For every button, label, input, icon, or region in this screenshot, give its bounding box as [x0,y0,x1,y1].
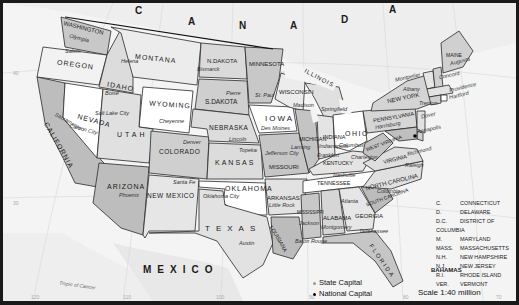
abbr-row: N.H.NEW HAMPSHIRE [436,253,516,262]
country-canada-a2: A [290,21,303,31]
country-canada-d: D [341,15,354,25]
lat-label-30: 30 [13,200,19,206]
capital-label-atlanta: Atlanta [341,199,358,205]
abbr-row: M.MARYLAND [436,235,516,244]
country-mexico: MEXICO [143,265,218,275]
capital-label-jefferson-city: Jefferson City [265,151,299,157]
country-canada-n: N [239,21,252,31]
capital-label-boise: Boise [105,91,119,97]
state-label-al: ALABAMA [323,215,351,221]
capital-label-frankfort: Frankfort [317,153,339,159]
legend-national-capital: National Capital [313,288,372,299]
state-label-az: ARIZONA [107,183,145,190]
capital-label-nashville: Nashville [333,173,355,179]
capital-label-des-moines: Des Moines [261,126,290,132]
lat-label-40: 40 [13,70,19,76]
capital-label-topeka: Topeka [239,148,257,154]
capital-label-lincoln: Lincoln [229,137,246,143]
capital-label-santa-fe: Santa Fe [173,180,195,186]
capital-label-tallahassee: Tallahassee [359,229,388,235]
lon-label-80: 80 [403,294,409,300]
capital-label-salt-lake-city: Salt Lake City [95,111,129,117]
capital-label-raleigh: Raleigh [405,163,424,169]
state-label-mo: MISSOURI [269,164,299,170]
abbr-row: MASS.MASSACHUSETTS [436,244,516,253]
capital-label-cheyenne: Cheyenne [159,119,184,125]
map-frame: C A N A D A MEXICO BAHAMAS WASHINGTON Ol… [0,0,519,305]
map-legend: State Capital National Capital [313,277,372,299]
state-sd [195,79,249,115]
state-ri [441,95,447,101]
state-label-ut: UTAH [117,131,148,138]
capital-label-st-paul: St. Paul [255,93,274,99]
state-label-wi: WISCONSIN [279,89,314,95]
lon-label-110: 110 [123,294,131,300]
capital-label-jackson: Jackson [299,221,319,227]
state-label-ga: GEORGIA [355,213,383,219]
capital-label-springfield: Lansing [291,145,310,151]
capital-label-helena: Helena [121,59,138,65]
state-label-mn: MINNESOTA [249,61,284,67]
state-label-sd: S.DAKOTA [205,99,237,106]
capital-label-little-rock: Little Rock [269,203,295,209]
capital-label-columbus: Columbus [339,143,364,149]
lon-label-70: 70 [496,294,502,300]
state-label-ne: NEBRASKA [209,125,248,132]
state-label-ks: KANSAS [215,159,255,166]
capital-label-hartford: Trenton [419,101,438,107]
state-label-ok: OKLAHOMA [225,185,273,192]
capital-label-charleston: Charleston [351,155,378,161]
state-label-nd: N.DAKOTA [207,58,237,64]
state-ms [301,193,321,239]
abbr-row: N.J.NEW JERSEY [436,262,516,271]
state-capital-dot-icon [313,282,316,285]
state-label-in: INDIANA [323,135,345,141]
country-canada-a3: A [389,5,402,15]
country-canada-a1: A [188,17,201,27]
capital-label-salem: Salem [65,49,81,55]
capital-label-albany: Albany [403,87,420,93]
capital-label-madison: Madison [293,103,314,109]
country-canada-c: C [135,6,148,16]
legend-state-capital: State Capital [313,277,372,288]
abbr-row: D.C.DISTRICT OF COLUMBIA [436,217,516,235]
abbreviation-key: C.CONNECTICUT D.DELAWARE D.C.DISTRICT OF… [436,199,516,289]
abbr-row: D.DELAWARE [436,208,516,217]
state-label-ia: IOWA [265,115,294,123]
capital-label-oklahoma-city: Oklahoma City [203,194,239,200]
capital-label-pierre: Pierre [226,91,241,97]
state-label-co: COLORADO [159,149,200,156]
state-az [93,163,149,235]
lon-label-120: 120 [31,294,39,300]
state-label-ar: ARKANSAS [267,195,300,201]
abbr-row: R.I.RHODE ISLAND [436,271,516,280]
state-label-ky: KENTUCKY [323,161,353,167]
state-label-tn: TENNESSEE [317,181,350,187]
capital-label-columbia: Columbia [377,189,400,195]
state-label-nm: NEW MEXICO [147,193,195,200]
state-label-oh: OHIO [345,130,369,137]
capital-label-austin: Austin [239,241,254,247]
capital-label-phoenix: Phoenix [119,193,139,199]
state-label-tx: TEXAS [205,225,261,233]
capital-label-lansing: Springfield [321,107,347,113]
capital-label-bismarck: Bismarck [197,67,220,73]
state-wy [139,87,193,133]
abbr-row: C.CONNECTICUT [436,199,516,208]
capital-label-baton-rouge: Baton Rouge [295,239,327,245]
capital-label-denver: Denver [183,140,201,146]
lon-label-90: 90 [309,294,315,300]
map-scale: Scale 1:40 million [418,288,481,297]
state-label-ms: MISSISSIPPI [297,211,324,216]
lon-label-100: 100 [216,294,224,300]
capital-label-montgomery: Montgomery [321,225,352,231]
